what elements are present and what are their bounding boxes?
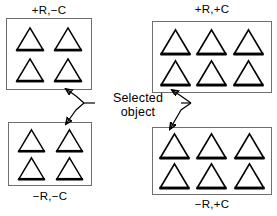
object-grid-bottom-right [153, 128, 271, 194]
leader-arrow-bottom-left [66, 103, 84, 124]
triangle-icon [195, 28, 228, 56]
triangle-icon [55, 128, 84, 153]
triangle-icon [53, 57, 83, 83]
object-cell [231, 161, 268, 191]
object-cell [12, 126, 50, 154]
panel-bottom-right [152, 127, 272, 195]
triangle-icon [232, 59, 265, 87]
object-cell [50, 154, 88, 182]
object-cell [194, 26, 231, 57]
triangle-icon [232, 28, 265, 56]
object-cell [230, 26, 267, 57]
triangle-icon [233, 132, 266, 160]
object-grid-bottom-left [9, 123, 91, 185]
object-cell [230, 57, 267, 88]
triangle-icon [17, 156, 46, 181]
triangle-icon [159, 59, 192, 87]
object-grid-top-right [153, 22, 271, 92]
panel-label-top-left: +R,−C [6, 4, 92, 16]
figure-root: +R,−C [0, 0, 277, 216]
object-grid-top-left [7, 19, 91, 89]
triangle-icon [195, 59, 228, 87]
object-cell [157, 26, 194, 57]
selected-object-caption: Selected object [96, 92, 180, 119]
triangle-icon [55, 156, 84, 181]
panel-label-bottom-right: −R,+C [152, 198, 272, 210]
object-cell [11, 23, 49, 54]
triangle-icon [15, 26, 45, 52]
object-cell [11, 54, 49, 85]
object-cell-selected-bottom-left [50, 126, 88, 154]
object-cell [156, 161, 193, 191]
object-cell-selected-top-left [49, 54, 87, 85]
panel-bottom-left [8, 122, 92, 186]
object-cell [231, 131, 268, 161]
panel-label-bottom-left: −R,−C [8, 190, 92, 202]
object-cell-selected-top-right [157, 57, 194, 88]
leader-arrow-top-left [66, 89, 84, 103]
object-cell [193, 161, 230, 191]
triangle-icon [158, 162, 191, 190]
panel-top-right [152, 21, 272, 93]
triangle-icon [159, 28, 192, 56]
object-cell [193, 131, 230, 161]
object-cell-selected-bottom-right [156, 131, 193, 161]
caption-line-2: object [96, 106, 180, 120]
triangle-icon [158, 132, 191, 160]
triangle-icon [195, 162, 228, 190]
triangle-icon [15, 57, 45, 83]
panel-label-top-right: +R,+C [152, 3, 272, 15]
object-cell [194, 57, 231, 88]
object-cell [49, 23, 87, 54]
object-cell [12, 154, 50, 182]
triangle-icon [17, 128, 46, 153]
caption-line-1: Selected [96, 92, 180, 106]
triangle-icon [233, 162, 266, 190]
triangle-icon [53, 26, 83, 52]
triangle-icon [195, 132, 228, 160]
panel-top-left [6, 18, 92, 90]
